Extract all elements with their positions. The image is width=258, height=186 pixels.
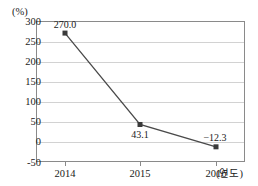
line-chart: (%) (연도) 300250200150100500-502014201520… [0,0,258,186]
data-point-value-label: −12.3 [193,132,237,143]
y-axis-tick-label: -50 [9,157,41,168]
data-point-value-label: 43.1 [118,129,162,140]
data-point-marker[interactable] [214,144,219,149]
data-point-value-label: 270.0 [43,19,87,30]
data-point-marker[interactable] [63,31,68,36]
y-axis-tick-label: 100 [9,96,41,107]
y-axis-tick-label: 200 [9,56,41,67]
y-axis-tick-label: 250 [9,36,41,47]
y-axis-tick-label: 0 [9,136,41,147]
data-point-marker[interactable] [138,122,143,127]
x-axis-tick-label: 2014 [42,168,88,180]
y-axis-tick-label: 300 [9,16,41,27]
y-axis-tick-label: 50 [9,116,41,127]
x-axis-tick-label: 2015 [117,168,163,180]
x-axis-tick [65,162,66,166]
x-axis-tick-label: 2016 [193,168,239,180]
x-axis-tick [140,162,141,166]
x-axis-tick [216,162,217,166]
y-axis-tick-label: 150 [9,76,41,87]
